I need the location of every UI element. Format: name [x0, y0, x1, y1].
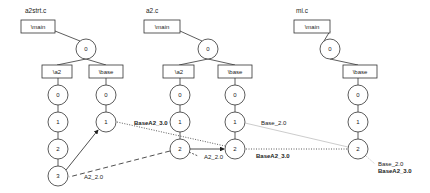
- merge-edge-light: [245, 123, 348, 147]
- merge-edges: [66, 122, 375, 177]
- edge-label: BaseA2_3.0: [378, 168, 412, 174]
- svg-text:\a2: \a2: [53, 69, 62, 75]
- file-label: a2.c: [146, 7, 159, 14]
- edge-label: A2_2.0: [204, 154, 224, 160]
- file-label: mi.c: [296, 7, 309, 14]
- merge-arrow: [66, 130, 98, 170]
- file-mi: mi.c \main 0 \base 0 1 2: [294, 7, 377, 159]
- file-label: a2strt.c: [25, 7, 47, 14]
- svg-text:\base: \base: [228, 69, 243, 75]
- edge-label: Base_2.0: [261, 120, 287, 126]
- svg-text:\base: \base: [99, 69, 114, 75]
- svg-text:\base: \base: [353, 69, 368, 75]
- version-tree-diagram: a2strt.c \main 0 \a2 0 1 2 3 \base 0 1 a…: [0, 0, 430, 193]
- svg-text:\main: \main: [305, 24, 320, 30]
- file-a2strt: a2strt.c \main 0 \a2 0 1 2 3 \base 0 1: [21, 7, 123, 186]
- edge-label: A2_2.0: [84, 174, 104, 180]
- file-a2: a2.c \main 0 \a2 0 1 2 \base 0 1 2: [144, 7, 252, 159]
- edge-label: BaseA2_3.0: [134, 120, 168, 126]
- edge-label: BaseA2_3.0: [256, 153, 290, 159]
- svg-text:\a2: \a2: [175, 69, 184, 75]
- edge-label: Base_2.0: [378, 161, 404, 167]
- svg-text:\main: \main: [155, 24, 170, 30]
- branch-label: \main: [31, 24, 46, 30]
